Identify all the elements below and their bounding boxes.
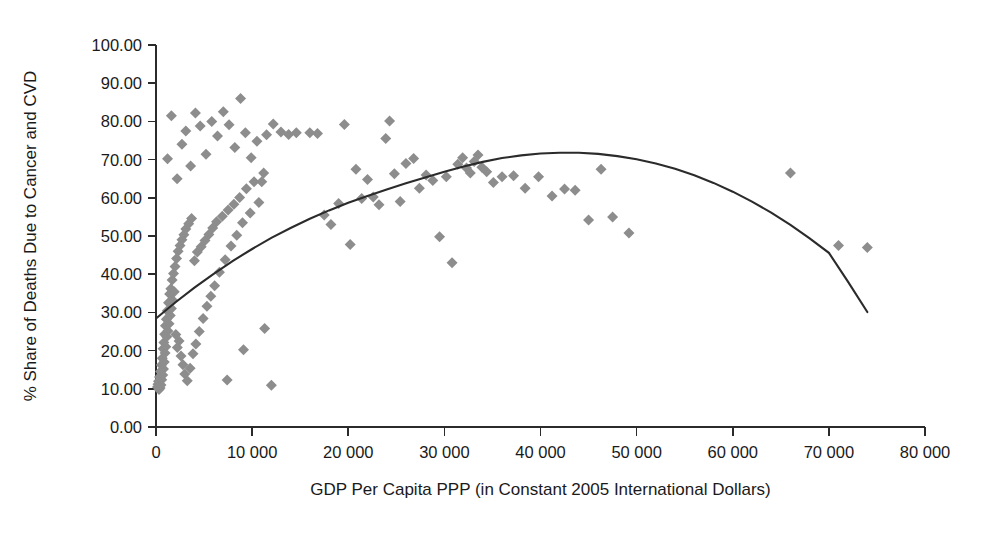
data-point — [389, 168, 400, 179]
data-point — [246, 152, 257, 163]
x-tick-label: 0 — [151, 443, 160, 461]
data-point — [180, 125, 191, 136]
data-point — [166, 110, 177, 121]
data-point — [253, 197, 264, 208]
data-point — [325, 219, 336, 230]
data-point — [251, 136, 262, 147]
data-point — [225, 240, 236, 251]
data-point — [206, 116, 217, 127]
data-point — [497, 171, 508, 182]
data-point — [235, 93, 246, 104]
data-point — [195, 120, 206, 131]
y-tick-label: 60.00 — [101, 189, 142, 207]
data-point — [533, 171, 544, 182]
data-point — [623, 227, 634, 238]
data-point — [259, 323, 270, 334]
data-point — [258, 167, 269, 178]
x-tick-label: 10 000 — [227, 443, 277, 461]
data-point — [266, 380, 277, 391]
data-point — [345, 239, 356, 250]
data-point — [261, 129, 272, 140]
data-point — [291, 127, 302, 138]
y-tick-label: 90.00 — [101, 74, 142, 92]
y-tick-label: 40.00 — [101, 265, 142, 283]
data-point — [240, 127, 251, 138]
data-point — [488, 177, 499, 188]
data-point — [201, 301, 212, 312]
y-tick-label: 30.00 — [101, 303, 142, 321]
chart-canvas: 0.0010.0020.0030.0040.0050.0060.0070.008… — [0, 0, 988, 534]
y-tick-label: 20.00 — [101, 342, 142, 360]
data-point — [583, 214, 594, 225]
data-point — [520, 183, 531, 194]
data-point — [312, 128, 323, 139]
data-point — [198, 313, 209, 324]
data-point — [162, 153, 173, 164]
x-tick-label: 50 000 — [611, 443, 661, 461]
y-axis-ticks — [148, 45, 156, 427]
data-point — [380, 133, 391, 144]
data-point — [218, 106, 229, 117]
x-axis-ticks — [156, 427, 925, 436]
data-point — [237, 217, 248, 228]
x-tick-label: 30 000 — [419, 443, 469, 461]
data-point — [508, 170, 519, 181]
y-axis-tick-labels: 0.0010.0020.0030.0040.0050.0060.0070.008… — [92, 36, 142, 436]
data-point — [190, 107, 201, 118]
y-tick-label: 10.00 — [101, 380, 142, 398]
x-tick-label: 60 000 — [708, 443, 758, 461]
data-point — [833, 240, 844, 251]
y-axis-title: % Share of Deaths Due to Cancer and CVD — [21, 71, 40, 402]
x-tick-label: 80 000 — [900, 443, 950, 461]
data-point — [447, 257, 458, 268]
data-point — [238, 344, 249, 355]
data-point — [241, 183, 252, 194]
data-point — [362, 174, 373, 185]
data-point — [194, 326, 205, 337]
scatter-chart: 0.0010.0020.0030.0040.0050.0060.0070.008… — [0, 0, 988, 534]
data-point — [268, 119, 279, 130]
data-point — [185, 161, 196, 172]
data-point — [209, 280, 220, 291]
x-tick-label: 20 000 — [323, 443, 373, 461]
data-point — [212, 130, 223, 141]
data-point — [205, 291, 216, 302]
y-axis-group: 0.0010.0020.0030.0040.0050.0060.0070.008… — [21, 36, 156, 436]
y-tick-label: 50.00 — [101, 227, 142, 245]
data-point — [222, 375, 233, 386]
data-point — [176, 139, 187, 150]
y-tick-label: 80.00 — [101, 112, 142, 130]
x-axis-group: 010 00020 00030 00040 00050 00060 00070 … — [151, 427, 950, 499]
data-point — [862, 242, 873, 253]
data-point — [570, 185, 581, 196]
data-point — [414, 183, 425, 194]
data-point — [596, 164, 607, 175]
data-point — [395, 196, 406, 207]
x-axis-title: GDP Per Capita PPP (in Constant 2005 Int… — [310, 480, 771, 499]
data-point — [374, 199, 385, 210]
data-point — [245, 208, 256, 219]
data-point — [190, 339, 201, 350]
x-axis-tick-labels: 010 00020 00030 00040 00050 00060 00070 … — [151, 443, 950, 461]
y-tick-label: 70.00 — [101, 151, 142, 169]
data-point — [434, 231, 445, 242]
x-tick-label: 70 000 — [804, 443, 854, 461]
data-point — [200, 149, 211, 160]
data-point — [229, 142, 240, 153]
y-tick-label: 0.00 — [110, 418, 142, 436]
data-point — [559, 184, 570, 195]
data-point — [607, 211, 618, 222]
data-point — [189, 255, 200, 266]
data-point — [785, 167, 796, 178]
data-point — [172, 173, 183, 184]
data-point — [339, 119, 350, 130]
x-tick-label: 40 000 — [515, 443, 565, 461]
y-tick-label: 100.00 — [92, 36, 142, 54]
data-point — [256, 176, 267, 187]
data-point — [350, 164, 361, 175]
data-point — [547, 190, 558, 201]
data-point — [231, 230, 242, 241]
data-point — [224, 119, 235, 130]
data-point — [188, 348, 199, 359]
data-point — [384, 116, 395, 127]
